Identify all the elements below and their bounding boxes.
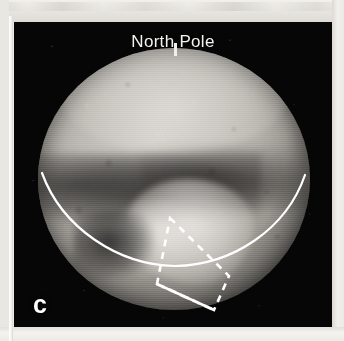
north-pole-label: North Pole bbox=[14, 32, 332, 52]
panel-letter-label: c bbox=[33, 292, 47, 317]
scan-margin-top bbox=[0, 0, 344, 22]
scan-margin-bottom bbox=[0, 327, 344, 341]
figure-panel-c: North Pole c bbox=[0, 0, 344, 341]
annotation-overlay bbox=[14, 22, 332, 327]
figure-image-plate: North Pole c bbox=[14, 22, 332, 327]
scan-margin-right bbox=[332, 0, 344, 341]
scan-margin-left bbox=[0, 0, 9, 341]
north-pole-tick-mark bbox=[174, 43, 177, 56]
equator-arc bbox=[42, 173, 305, 266]
column-divider-line bbox=[9, 16, 13, 341]
